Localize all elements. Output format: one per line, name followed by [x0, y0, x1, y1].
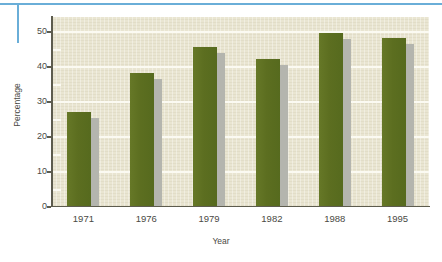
x-tick-label-1971: 1971 [53, 214, 113, 224]
minor-gridline-25 [52, 119, 61, 121]
gridline-20 [52, 136, 429, 138]
bar-shadow [91, 118, 99, 207]
bar-group [193, 47, 225, 206]
y-tick-label-0: 0 [17, 202, 47, 211]
x-axis-title: Year [0, 236, 442, 246]
y-tick-label-50: 50 [17, 27, 47, 36]
x-tick-label-1979: 1979 [179, 214, 239, 224]
y-tick-label-10: 10 [17, 167, 47, 176]
y-tick-50 [47, 31, 51, 33]
y-tick-0 [47, 206, 51, 208]
bar-1979[interactable] [193, 47, 217, 206]
bar-shadow [154, 79, 162, 206]
y-tick-30 [47, 101, 51, 103]
y-tick-20 [47, 136, 51, 138]
x-tick-label-1976: 1976 [116, 214, 176, 224]
bar-shadow [280, 65, 288, 206]
bar-group [256, 59, 288, 206]
minor-gridline-45 [52, 49, 61, 51]
gridline-10 [52, 171, 429, 173]
bar-1982[interactable] [256, 59, 280, 206]
bar-shadow [217, 53, 225, 206]
bar-shadow [406, 44, 414, 206]
bar-group [319, 33, 351, 206]
x-axis-line [51, 206, 430, 208]
minor-gridline-5 [52, 189, 61, 191]
minor-gridline-35 [52, 84, 61, 86]
bar-1995[interactable] [382, 38, 406, 206]
gridline-30 [52, 101, 429, 103]
gridline-50 [52, 31, 429, 33]
bar-chart-figure: 01020304050 197119761979198219881995 Per… [0, 0, 442, 262]
gridline-40 [52, 66, 429, 68]
bar-group [382, 38, 414, 206]
bar-1971[interactable] [67, 112, 91, 207]
plot-area [52, 17, 429, 206]
y-axis-line [51, 16, 53, 206]
x-tick-label-1982: 1982 [242, 214, 302, 224]
bar-1976[interactable] [130, 73, 154, 206]
minor-gridline-15 [52, 154, 61, 156]
bar-1988[interactable] [319, 33, 343, 206]
bar-group [130, 73, 162, 206]
bar-group [67, 112, 99, 207]
x-tick-label-1988: 1988 [305, 214, 365, 224]
bar-shadow [343, 39, 351, 206]
y-tick-40 [47, 66, 51, 68]
x-tick-label-1995: 1995 [368, 214, 428, 224]
y-tick-10 [47, 171, 51, 173]
y-axis-title: Percentage [12, 65, 22, 145]
